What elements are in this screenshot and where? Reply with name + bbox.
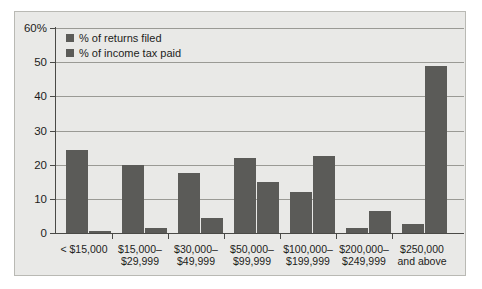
bar-income-tax-paid-2 bbox=[201, 218, 223, 233]
legend-item-income-tax-paid: % of income tax paid bbox=[66, 46, 181, 60]
bar-returns-filed-0 bbox=[66, 150, 88, 233]
bar-group-5 bbox=[346, 28, 391, 233]
bar-returns-filed-3 bbox=[234, 158, 256, 233]
bar-group-3 bbox=[234, 28, 279, 233]
xtick-label-0: < $15,000 bbox=[56, 243, 112, 255]
bar-group-6 bbox=[402, 28, 447, 233]
xtick-label-2-line1: $30,000– bbox=[168, 243, 224, 255]
xtick-sep-6 bbox=[392, 233, 393, 239]
legend-swatch-icon-0 bbox=[66, 34, 74, 42]
xtick-label-1-line1: $15,000– bbox=[112, 243, 168, 255]
bar-income-tax-paid-5 bbox=[369, 211, 391, 233]
legend-label-0: % of returns filed bbox=[79, 32, 162, 44]
bar-income-tax-paid-3 bbox=[257, 182, 279, 233]
x-axis-line bbox=[55, 233, 464, 234]
bar-income-tax-paid-0 bbox=[89, 231, 111, 233]
bar-returns-filed-4 bbox=[290, 192, 312, 233]
legend-item-returns-filed: % of returns filed bbox=[66, 31, 181, 45]
ytick-label-30: 30 bbox=[18, 125, 47, 137]
ytick-label-40: 40 bbox=[18, 90, 47, 102]
xtick-sep-2 bbox=[168, 233, 169, 239]
xtick-label-4-line2: $199,999 bbox=[280, 255, 336, 267]
xtick-label-0-line1: < $15,000 bbox=[56, 243, 112, 255]
xtick-label-1: $15,000– $29,999 bbox=[112, 243, 168, 267]
xtick-label-3-line2: $99,999 bbox=[224, 255, 280, 267]
bar-group-4 bbox=[290, 28, 335, 233]
legend-label-1: % of income tax paid bbox=[79, 47, 181, 59]
bar-returns-filed-1 bbox=[122, 165, 144, 233]
xtick-label-2-line2: $49,999 bbox=[168, 255, 224, 267]
ytick-label-60: 60% bbox=[18, 22, 47, 34]
xtick-label-6-line1: $250,000 bbox=[392, 243, 452, 255]
xtick-label-3: $50,000– $99,999 bbox=[224, 243, 280, 267]
ytick-label-50: 50 bbox=[18, 56, 47, 68]
y-axis-line bbox=[55, 27, 56, 234]
bar-returns-filed-6 bbox=[402, 224, 424, 233]
xtick-label-5: $200,000– $249,999 bbox=[336, 243, 392, 267]
legend-swatch-icon-1 bbox=[66, 49, 74, 57]
xtick-sep-3 bbox=[224, 233, 225, 239]
ytick-label-10: 10 bbox=[18, 193, 47, 205]
xtick-label-5-line2: $249,999 bbox=[336, 255, 392, 267]
xtick-label-5-line1: $200,000– bbox=[336, 243, 392, 255]
ytick-label-0: 0 bbox=[18, 227, 47, 239]
chart-legend: % of returns filed % of income tax paid bbox=[66, 31, 181, 61]
xtick-label-3-line1: $50,000– bbox=[224, 243, 280, 255]
bar-returns-filed-2 bbox=[178, 173, 200, 233]
bar-income-tax-paid-6 bbox=[425, 66, 447, 233]
chart-screenshot: 60% 50 40 30 20 10 0 < $15,00 bbox=[0, 0, 482, 289]
xtick-label-6: $250,000 and above bbox=[392, 243, 452, 267]
xtick-label-6-line2: and above bbox=[392, 255, 452, 267]
bar-income-tax-paid-4 bbox=[313, 156, 335, 233]
xtick-label-1-line2: $29,999 bbox=[112, 255, 168, 267]
xtick-label-2: $30,000– $49,999 bbox=[168, 243, 224, 267]
bar-group-2 bbox=[178, 28, 223, 233]
xtick-label-4: $100,000– $199,999 bbox=[280, 243, 336, 267]
xtick-label-4-line1: $100,000– bbox=[280, 243, 336, 255]
bar-income-tax-paid-1 bbox=[145, 228, 167, 233]
xtick-sep-1 bbox=[112, 233, 113, 239]
xtick-sep-4 bbox=[280, 233, 281, 239]
xtick-sep-5 bbox=[336, 233, 337, 239]
ytick-label-20: 20 bbox=[18, 159, 47, 171]
bar-returns-filed-5 bbox=[346, 228, 368, 233]
